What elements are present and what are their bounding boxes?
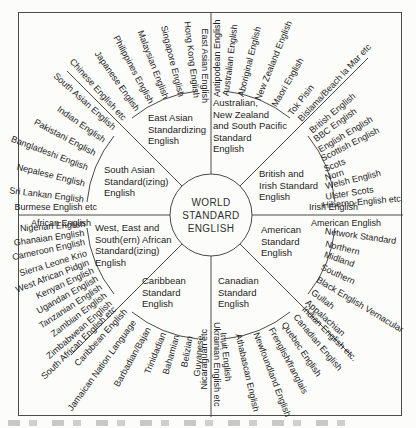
sector-label-african: West, East andSouth(ern) AfricanStandard… bbox=[95, 222, 172, 268]
sector-label-line: South Asian bbox=[104, 164, 168, 176]
sector-label-line: West, East and bbox=[95, 222, 172, 234]
sector-label-line: Canadian bbox=[218, 275, 259, 287]
hub-label-line: WORLD bbox=[170, 196, 252, 209]
sector-label-line: Standard bbox=[142, 287, 186, 299]
sector-label-line: Standard(izing) bbox=[95, 245, 172, 257]
sector-label-line: English bbox=[95, 257, 172, 269]
sector-label-line: English bbox=[213, 143, 287, 155]
spoke-label: East Asian English bbox=[200, 28, 210, 103]
sector-label-american: AmericanStandardEnglish bbox=[261, 224, 301, 259]
spoke-label: Ukrainian English etc bbox=[212, 322, 222, 407]
spoke-label: Nicaraguan etc bbox=[199, 329, 209, 390]
sector-label-line: East Asian bbox=[148, 112, 206, 124]
sector-label-line: English bbox=[218, 298, 259, 310]
sector-label-line: Caribbean bbox=[142, 275, 186, 287]
sector-label-line: Standard bbox=[261, 236, 301, 248]
sector-label-line: English bbox=[261, 247, 301, 259]
spoke-label: Antipodean English bbox=[212, 19, 222, 97]
cropped-caption-remnant bbox=[8, 420, 346, 426]
sector-label-line: Standard bbox=[213, 132, 287, 144]
sector-label-canadian: CanadianStandardEnglish bbox=[218, 275, 259, 310]
sector-label-line: Standardizing bbox=[148, 124, 206, 136]
sector-label-line: English bbox=[104, 187, 168, 199]
sector-label-line: American bbox=[261, 224, 301, 236]
sector-label-line: Irish Standard bbox=[259, 180, 318, 192]
sector-label-caribbean: CaribbeanStandardEnglish bbox=[142, 275, 186, 310]
hub-label-line: STANDARD bbox=[170, 209, 252, 222]
spoke-label: Burmese English etc bbox=[14, 202, 97, 212]
circle-of-world-english-diagram: WORLD STANDARD ENGLISH East AsianStandar… bbox=[0, 0, 416, 428]
sector-label-east-asian: East AsianStandardizingEnglish bbox=[148, 112, 206, 147]
sector-label-line: Standard bbox=[218, 287, 259, 299]
sector-label-british: British andIrish StandardEnglish bbox=[259, 168, 318, 203]
spoke-label: American English bbox=[311, 218, 381, 228]
sector-label-line: English bbox=[148, 135, 206, 147]
hub-label: WORLD STANDARD ENGLISH bbox=[170, 196, 252, 235]
sector-label-line: and South Pacific bbox=[213, 120, 287, 132]
sector-label-line: New Zealand bbox=[213, 109, 287, 121]
sector-label-line: British and bbox=[259, 168, 318, 180]
sector-label-line: English bbox=[142, 298, 186, 310]
sector-label-south-asian: South AsianStandard(izing)English bbox=[104, 164, 168, 199]
hub-label-line: ENGLISH bbox=[170, 222, 252, 235]
spoke-label: Irish English bbox=[309, 202, 358, 212]
sector-label-line: South(ern) African bbox=[95, 234, 172, 246]
sector-label-line: English bbox=[259, 191, 318, 203]
sector-label-line: Standard(izing) bbox=[104, 176, 168, 188]
